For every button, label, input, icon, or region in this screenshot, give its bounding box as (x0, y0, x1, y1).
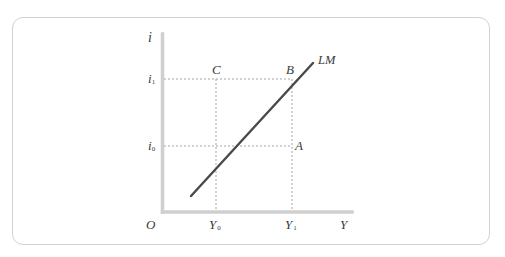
origin-label: O (146, 217, 156, 232)
point-a-label: A (294, 138, 303, 153)
point-c-label: C (212, 62, 221, 77)
lm-curve-diagram: i Y O i1 i0 Y0 Y1 C B A LM (0, 0, 505, 257)
point-b-label: B (286, 62, 294, 77)
lm-curve-label: LM (317, 53, 336, 67)
guide-lines (164, 79, 292, 211)
y-axis-label: i (148, 30, 152, 45)
x-axis-label: Y (340, 217, 349, 232)
lm-curve (191, 63, 313, 196)
y-tick-i0: i0 (148, 138, 156, 153)
x-tick-y1: Y1 (285, 217, 297, 232)
x-tick-y0: Y0 (209, 217, 221, 232)
y-tick-i1: i1 (148, 71, 156, 86)
